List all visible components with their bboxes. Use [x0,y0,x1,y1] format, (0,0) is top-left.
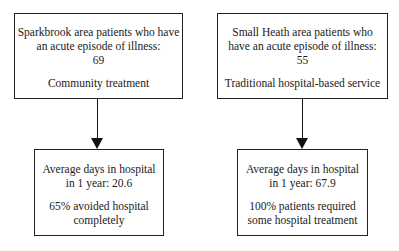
treatment-type: Traditional hospital-based service [218,76,387,90]
patient-count: 69 [15,53,182,67]
arrow-down-icon [91,138,103,149]
box-text-line: an acute episode of illness: [15,39,182,53]
outcome-text: 100% patients required [238,199,367,213]
patient-count: 55 [218,53,387,67]
arrow-connector [302,99,304,139]
box-text-line: Average days in hospital [238,162,367,176]
outcome-text: 65% avoided hospital [35,199,163,213]
treatment-type: Community treatment [15,76,182,90]
small-heath-patients-box: Small Heath area patients who have an ac… [217,13,388,99]
outcome-text: some hospital treatment [238,213,367,227]
box-text-line: Average days in hospital [35,162,163,176]
small-heath-outcome-box: Average days in hospital in 1 year: 67.9… [237,149,368,236]
outcome-text: completely [35,213,163,227]
sparkbrook-patients-box: Sparkbrook area patients who have an acu… [14,13,183,99]
box-text-line: Sparkbrook area patients who have [15,25,182,39]
box-text-line: Small Heath area patients who [218,25,387,39]
box-text-line: have an acute episode of illness: [218,39,387,53]
average-days: in 1 year: 20.6 [35,176,163,190]
sparkbrook-outcome-box: Average days in hospital in 1 year: 20.6… [34,149,164,236]
average-days: in 1 year: 67.9 [238,176,367,190]
arrow-down-icon [296,138,308,149]
arrow-connector [97,99,99,139]
